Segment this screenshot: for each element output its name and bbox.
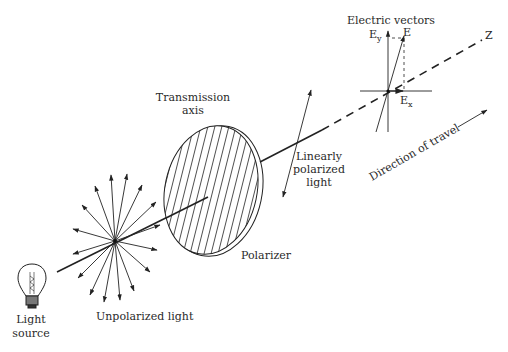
- electric-vectors-label: Electric vectors: [347, 14, 435, 27]
- light-source-label-2: source: [12, 327, 49, 340]
- light-bulb-icon: [18, 264, 46, 308]
- transmission-axis-hatching: [130, 110, 296, 270]
- linearly-polarized-label: Linearly: [296, 150, 343, 163]
- e-label: E: [403, 26, 411, 39]
- electric-vectors-axes: [360, 31, 432, 132]
- polarizer-disk: [130, 110, 296, 270]
- direction-of-travel-label: Direction of travel: [367, 121, 462, 184]
- light-source-label: Light: [16, 313, 46, 326]
- direction-of-travel-arrow-icon: [458, 110, 487, 127]
- unpolarized-light-label: Unpolarized light: [96, 310, 194, 323]
- linearly-polarized-label-2: polarized: [293, 163, 345, 176]
- linearly-polarized-label-3: light: [306, 176, 332, 189]
- polarizer-label: Polarizer: [241, 249, 292, 262]
- polarized-beam: [260, 40, 482, 162]
- e-y-label: Ey: [369, 28, 382, 43]
- e-x-label: Ex: [400, 94, 413, 109]
- polarization-diagram: Light source Unpolarized light Transmiss…: [0, 0, 508, 352]
- unpolarized-light-starburst-icon: [73, 174, 160, 302]
- transmission-axis-label-2: axis: [182, 104, 204, 117]
- transmission-axis-label: Transmission: [156, 91, 230, 104]
- z-axis-label: Z: [485, 29, 493, 42]
